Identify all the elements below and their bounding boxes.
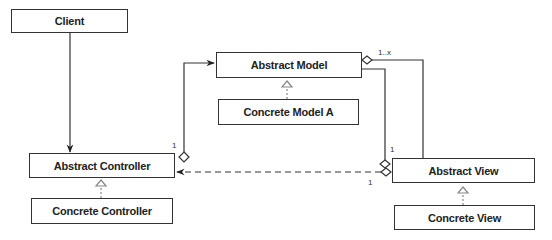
controller-aggregation-diamond xyxy=(179,152,189,162)
class-client: Client xyxy=(11,9,128,33)
multiplicity-model-view: 1..x xyxy=(378,48,391,57)
class-concrete-controller: Concrete Controller xyxy=(31,198,173,224)
class-concrete-view-label: Concrete View xyxy=(428,212,501,224)
class-abstract-model-label: Abstract Model xyxy=(251,59,328,71)
class-client-label: Client xyxy=(55,15,84,27)
class-abstract-view-label: Abstract View xyxy=(429,165,499,177)
model-aggregation-diamond xyxy=(362,56,372,64)
view-aggregation-diamond xyxy=(380,160,390,168)
model-realization-triangle xyxy=(282,81,292,87)
multiplicity-view-controller: 1 xyxy=(368,178,372,187)
multiplicity-controller-model: 1 xyxy=(172,141,176,150)
controller-realization-triangle xyxy=(96,180,106,186)
view-controller-diamond xyxy=(381,168,391,176)
class-abstract-view: Abstract View xyxy=(392,158,535,183)
model-to-view-line xyxy=(372,60,423,158)
class-concrete-controller-label: Concrete Controller xyxy=(52,205,152,217)
class-concrete-model-a: Concrete Model A xyxy=(218,99,359,125)
class-concrete-model-a-label: Concrete Model A xyxy=(244,106,334,118)
multiplicity-view-model: 1 xyxy=(390,145,394,154)
view-to-model-line xyxy=(362,69,385,160)
class-abstract-model: Abstract Model xyxy=(216,52,362,78)
controller-to-model-line xyxy=(184,63,214,154)
class-concrete-view: Concrete View xyxy=(394,205,535,230)
class-abstract-controller-label: Abstract Controller xyxy=(54,160,150,172)
class-abstract-controller: Abstract Controller xyxy=(29,153,175,178)
view-realization-triangle xyxy=(458,187,468,193)
